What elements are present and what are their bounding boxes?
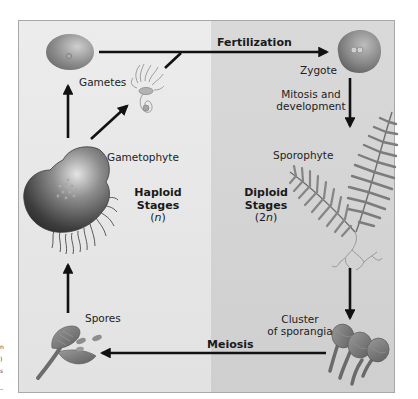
fertilization-label: Fertilization: [217, 37, 292, 49]
meiosis-label: Meiosis: [207, 339, 254, 351]
gametophyte-icon: [24, 147, 118, 254]
diploid-ploidy-close: ): [273, 211, 277, 224]
gametophyte-label: Gametophyte: [107, 151, 179, 163]
sporangia-label: Cluster of sporangia: [265, 313, 335, 337]
gametophyte-to-sperm-arrow: [91, 106, 127, 139]
diploid-ploidy-open: (2: [255, 211, 266, 224]
sporangia-label-line1: Cluster: [265, 313, 335, 325]
haploid-title: Haploid: [128, 187, 188, 200]
sporangia-label-line2: of sporangia: [265, 325, 335, 337]
sporophyte-label: Sporophyte: [273, 149, 333, 161]
sperm-icon: [131, 64, 164, 112]
spores-sporangium-icon: [38, 326, 103, 378]
diploid-ploidy-var: n: [266, 211, 273, 224]
fertilization-arrow: [99, 52, 327, 68]
egg-icon: [46, 34, 94, 70]
diploid-stages-label: Diploid Stages (2n): [236, 187, 296, 225]
mitosis-label: Mitosis and development: [276, 88, 346, 112]
haploid-stages-label: Haploid Stages (n): [128, 187, 188, 225]
mitosis-label-line1: Mitosis and: [276, 88, 346, 100]
gametes-label: Gametes: [79, 76, 126, 88]
haploid-ploidy: (n): [128, 212, 188, 225]
diploid-ploidy: (2n): [236, 212, 296, 225]
sporangia-cluster-icon: [329, 321, 393, 384]
zygote-label: Zygote: [300, 64, 337, 76]
mitosis-label-line2: development: [276, 100, 346, 112]
haploid-ploidy-close: ): [161, 211, 165, 224]
spores-label: Spores: [85, 312, 121, 324]
fern-sporophyte-icon: [290, 112, 397, 270]
diploid-title: Diploid: [236, 187, 296, 200]
zygote-icon: [338, 30, 381, 73]
